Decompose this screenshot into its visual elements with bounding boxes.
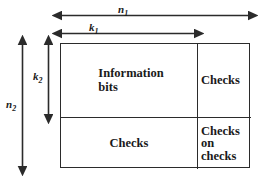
cell-information-bits: Information bits: [61, 44, 197, 117]
dimension-subscript-k2: 2: [39, 76, 43, 85]
cell-checks-on-checks: Checks on checks: [197, 117, 251, 169]
cell-checks-column: Checks: [197, 44, 251, 117]
cell-checks-on-checks-label: Checks on checks: [198, 125, 240, 163]
cell-checks-row: Checks: [61, 117, 197, 169]
cell-checks-on-checks-line3: checks: [201, 150, 240, 163]
cell-information-bits-line2: bits: [98, 81, 163, 94]
code-array-box: Information bits Checks Checks Checks on…: [60, 43, 250, 168]
dimension-label-n2: n2: [6, 98, 16, 113]
dimension-label-k1: k1: [89, 21, 99, 36]
cell-checks-on-checks-line2: on: [201, 137, 240, 150]
dimension-subscript-n2: 2: [12, 104, 16, 113]
product-code-diagram: n1 k1 n2 k2 Information bits Checks Chec…: [0, 0, 263, 179]
cell-information-bits-label: Information bits: [94, 67, 163, 93]
dimension-label-k2: k2: [33, 70, 43, 85]
dimension-subscript-k1: 1: [95, 27, 99, 36]
cell-checks-column-label: Checks: [198, 74, 240, 87]
dimension-subscript-n1: 1: [124, 9, 128, 18]
cell-information-bits-line1: Information: [98, 67, 163, 80]
cell-checks-row-label: Checks: [110, 137, 149, 150]
dimension-label-n1: n1: [118, 3, 128, 18]
